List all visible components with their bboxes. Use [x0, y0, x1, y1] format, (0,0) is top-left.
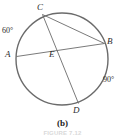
arc-measure-label-bd: 90°	[103, 76, 114, 84]
geometry-figure: C B A D E 60° 90° (b) FIGURE 7.12	[0, 0, 125, 137]
main-circle	[16, 13, 108, 105]
point-label-c: C	[37, 3, 43, 12]
point-label-b: B	[107, 37, 113, 46]
point-label-d: D	[73, 106, 80, 115]
figure-caption: (b)	[0, 118, 125, 128]
arc-measure-label-ac: 60°	[2, 27, 13, 35]
point-label-a: A	[5, 50, 11, 59]
circle-diagram	[0, 0, 125, 137]
chord-C-B	[43, 15, 105, 44]
chord-A-B	[17, 44, 105, 57]
chord-C-D	[43, 15, 79, 104]
figure-number-text: FIGURE 7.12	[0, 130, 125, 137]
point-label-e: E	[49, 50, 55, 59]
